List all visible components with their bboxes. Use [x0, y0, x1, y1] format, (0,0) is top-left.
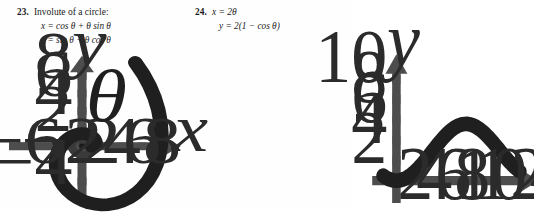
problem-24-equation-x-lhs: x	[212, 7, 216, 17]
problem-24: 24. x = 2θ y = 2(1 − cos θ)	[181, 0, 353, 34]
y-axis-label: y	[380, 0, 421, 83]
problem-23-graph: −6 −2 2 4 6 8 8 6 4 2 −4 x y θ	[4, 60, 180, 206]
problem-23-number: 23.	[17, 7, 29, 17]
problem-24-number: 24.	[195, 7, 207, 17]
problem-24-equation-x: x = 2θ	[212, 7, 237, 17]
x-axis-label: x	[172, 90, 208, 166]
equals-sign: =	[219, 7, 228, 17]
problem-24-equation-x-rhs: 2θ	[227, 7, 236, 17]
equals-sign: =	[225, 21, 234, 31]
problem-24-graph: 2 4 6 8 10 12 2 4 6 8 10 x y	[367, 60, 534, 206]
x-axis-tick-labels: 2 4 6 8 10 12	[397, 131, 534, 216]
theta-annotation-label: θ	[86, 56, 127, 137]
y-axis-tick-labels: 2 4 6 8 10	[315, 14, 387, 180]
svg-text:10: 10	[315, 14, 387, 99]
problem-24-equation-y-rhs: 2(1 − cos θ)	[234, 21, 280, 31]
problem-23: 23. Involute of a circle: x = cos θ + θ …	[0, 0, 180, 48]
cycloid-plot-svg: 2 4 6 8 10 12 2 4 6 8 10 x y	[367, 60, 534, 206]
x-axis-label: x	[531, 116, 534, 204]
svg-text:12: 12	[474, 131, 534, 216]
svg-text:−4: −4	[0, 124, 72, 198]
problem-24-equation-y-lhs: y	[219, 21, 223, 31]
involute-plot-svg: −6 −2 2 4 6 8 8 6 4 2 −4 x y θ	[4, 60, 180, 206]
